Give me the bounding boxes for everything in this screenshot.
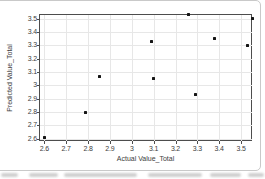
blurred-text-artifact (64, 173, 137, 177)
x-tick-mark (132, 141, 133, 144)
y-tick-label: 3.2 (20, 55, 37, 63)
y-tick-label: 2.7 (20, 121, 37, 129)
x-axis-label: Actual Value_Total (39, 154, 252, 163)
grid-line-vertical (66, 15, 67, 141)
x-tick-mark (176, 141, 177, 144)
data-point (194, 93, 197, 96)
blurred-text-artifact (210, 173, 241, 177)
grid-line-horizontal (40, 72, 252, 73)
blurred-text-artifact (1, 173, 18, 177)
x-tick-mark (154, 141, 155, 144)
x-tick-mark (197, 141, 198, 144)
data-point (213, 37, 216, 40)
data-point (251, 17, 254, 20)
grid-line-vertical (241, 15, 242, 141)
y-tick-label: 2.9 (20, 95, 37, 103)
grid-line-horizontal (40, 85, 252, 86)
grid-line-horizontal (40, 32, 252, 33)
data-point (98, 75, 101, 78)
grid-line-horizontal (40, 19, 252, 20)
grid-line-horizontal (40, 45, 252, 46)
x-tick-label: 2.9 (100, 145, 120, 153)
y-tick-label: 3.5 (20, 15, 37, 23)
data-point (246, 44, 249, 47)
grid-line-horizontal (40, 99, 252, 100)
grid-line-horizontal (40, 59, 252, 60)
x-tick-label: 3.3 (187, 145, 207, 153)
x-tick-mark (88, 141, 89, 144)
y-axis-label: Predicted Value_Total (5, 15, 15, 141)
x-tick-label: 2.6 (34, 145, 54, 153)
x-tick-label: 3.1 (144, 145, 164, 153)
x-tick-mark (44, 141, 45, 144)
x-tick-mark (241, 141, 242, 144)
y-tick-label: 3.3 (20, 41, 37, 49)
y-tick-label: 2.6 (20, 135, 37, 143)
grid-line-vertical (197, 15, 198, 141)
x-tick-label: 2.7 (56, 145, 76, 153)
blurred-text-artifact (29, 173, 58, 177)
x-tick-mark (66, 141, 67, 144)
grid-line-horizontal (40, 139, 252, 140)
plot-area (39, 14, 252, 141)
grid-line-vertical (219, 15, 220, 141)
data-point (187, 13, 190, 16)
y-tick-label: 3.1 (20, 68, 37, 76)
grid-line-vertical (110, 15, 111, 141)
grid-line-vertical (44, 15, 45, 141)
data-point (43, 136, 46, 139)
grid-line-vertical (176, 15, 177, 141)
x-tick-mark (110, 141, 111, 144)
chart-panel: 2.62.72.82.933.13.23.33.43.52.62.72.82.9… (0, 0, 265, 179)
y-tick-label: 3.4 (20, 28, 37, 36)
x-tick-label: 3 (122, 145, 142, 153)
data-point (152, 77, 155, 80)
x-tick-mark (219, 141, 220, 144)
y-tick-label: 3 (20, 81, 37, 89)
blurred-text-artifact (148, 173, 202, 177)
x-tick-label: 3.2 (166, 145, 186, 153)
x-tick-label: 3.5 (231, 145, 251, 153)
blurred-text-artifact (248, 173, 264, 177)
data-point (150, 40, 153, 43)
grid-line-horizontal (40, 112, 252, 113)
grid-line-vertical (88, 15, 89, 141)
x-tick-label: 2.8 (78, 145, 98, 153)
grid-line-horizontal (40, 125, 252, 126)
x-tick-label: 3.4 (209, 145, 229, 153)
y-tick-label: 2.8 (20, 108, 37, 116)
grid-line-vertical (132, 15, 133, 141)
data-point (84, 111, 87, 114)
